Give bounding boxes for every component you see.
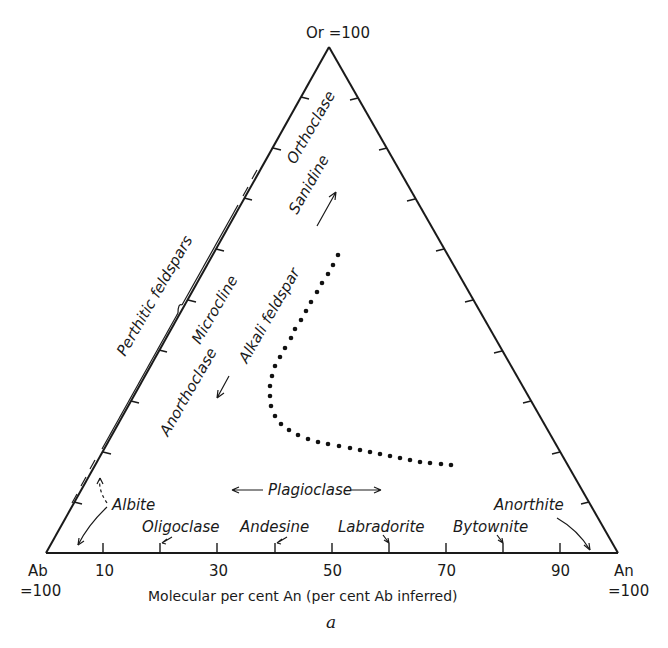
label-labradorite: Labradorite [338, 518, 425, 536]
plagioclase-label-group: Plagioclase [232, 481, 381, 499]
apex-ab-value: =100 [20, 582, 61, 600]
label-plagioclase: Plagioclase [268, 481, 352, 499]
tick-label-70: 70 [437, 562, 456, 580]
apex-or-label: Or =100 [306, 24, 370, 42]
figure-caption: a [326, 612, 336, 632]
label-andesine: Andesine [239, 518, 309, 536]
label-alkali-feldspar: Alkali feldspar [234, 264, 304, 367]
apex-an-label: An [614, 562, 634, 580]
tick-label-30: 30 [209, 562, 228, 580]
anorthite-pointer-arrow [557, 518, 590, 550]
label-anorthite: Anorthite [493, 496, 564, 514]
label-orthoclase: Orthoclase [283, 88, 339, 167]
label-bytownite: Bytownite [453, 518, 528, 536]
axis-title: Molecular per cent An (per cent Ab infer… [148, 588, 458, 604]
label-anorthoclase: Anorthoclase [155, 345, 220, 440]
triangle-frame [46, 47, 618, 553]
apex-ab-label: Ab [28, 562, 48, 580]
right-edge-ticks [350, 98, 589, 504]
ternary-feldspar-diagram: Or =100 Ab =100 An =100 10 30 50 70 90 M… [0, 0, 668, 648]
perthitic-bracket [72, 170, 257, 503]
tick-label-10: 10 [95, 562, 114, 580]
label-perthitic-feldspars: Perthitic feldspars [113, 232, 197, 359]
boundary-arrows [162, 535, 503, 544]
label-albite: Albite [111, 496, 155, 514]
bottom-axis-ticks [103, 543, 560, 553]
label-oligoclase: Oligoclase [142, 518, 220, 536]
tick-label-90: 90 [551, 562, 570, 580]
apex-an-value: =100 [608, 582, 649, 600]
tick-label-50: 50 [323, 562, 342, 580]
